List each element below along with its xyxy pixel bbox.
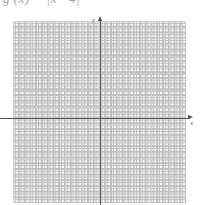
y-axis-line — [100, 18, 101, 205]
x-axis-line — [0, 118, 190, 119]
formula-strip: g (x) = |x - 4| — [0, 0, 203, 9]
y-axis-arrow-icon — [98, 16, 102, 21]
x-axis-label: x — [190, 119, 193, 127]
function-formula-label: g (x) = |x - 4| — [3, 0, 80, 7]
y-axis-label: y — [92, 16, 95, 24]
graph-worksheet-screenshot: g (x) = |x - 4| y x — [0, 0, 203, 205]
